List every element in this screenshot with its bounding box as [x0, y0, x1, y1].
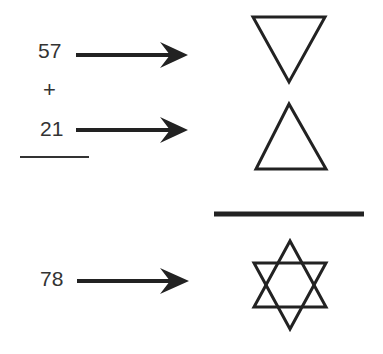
upward-triangle-icon	[256, 104, 326, 169]
arrow-icon-3	[77, 268, 189, 294]
arrow-icon-2	[76, 117, 188, 143]
downward-triangle-icon	[253, 17, 325, 82]
arrow-icon-1	[76, 42, 188, 68]
star-of-david-icon	[254, 241, 326, 329]
diagram-canvas	[0, 0, 383, 354]
